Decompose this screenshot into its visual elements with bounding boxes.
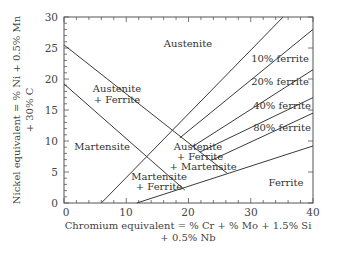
label-80-ferrite: 80% ferrite	[253, 122, 311, 133]
label-20-ferrite: 20% ferrite	[251, 76, 309, 87]
y-tick-0: 0	[51, 197, 58, 209]
x-axis-label-line2: + 0.5% Nb	[160, 232, 215, 243]
y-axis-label-line2: + 30% C	[24, 87, 35, 132]
x-tick-labels: 0 10 20 30 40	[63, 206, 320, 218]
x-axis-label-line1: Chromium equivalent = % Cr + % Mo + 1.5%…	[65, 220, 312, 231]
label-austenite-ferrite-2: + Ferrite	[94, 94, 141, 105]
x-tick-30: 30	[244, 206, 257, 218]
y-tick-25: 25	[45, 42, 58, 54]
y-tick-labels: 0 5 10 15 20 25 30	[45, 11, 58, 209]
label-ferrite: Ferrite	[268, 177, 303, 188]
label-austenite: Austenite	[163, 38, 212, 49]
label-martensite-ferrite-2: + Ferrite	[136, 181, 183, 192]
x-tick-0: 0	[63, 206, 70, 218]
boundary-line-6	[212, 113, 313, 160]
y-tick-15: 15	[45, 104, 58, 116]
label-40-ferrite: 40% ferrite	[253, 100, 311, 111]
label-10-ferrite: 10% ferrite	[251, 53, 309, 64]
y-tick-10: 10	[45, 135, 58, 147]
y-tick-5: 5	[51, 166, 58, 178]
x-tick-20: 20	[181, 206, 194, 218]
y-tick-30: 30	[45, 11, 58, 23]
x-tick-10: 10	[119, 206, 132, 218]
region-labels: Austenite Austenite + Ferrite Martensite…	[74, 38, 311, 192]
schaeffler-diagram: 0 5 10 15 20 25 30 0 10 20 30 40 Chromiu…	[0, 0, 338, 255]
y-axis-label-line1: Nickel equivalent = % Ni + 0.5% Mn	[11, 15, 22, 204]
y-tick-20: 20	[45, 73, 58, 85]
x-tick-40: 40	[306, 206, 319, 218]
label-austenite-ferrite-1: Austenite	[92, 83, 141, 94]
label-martensite: Martensite	[74, 141, 130, 152]
